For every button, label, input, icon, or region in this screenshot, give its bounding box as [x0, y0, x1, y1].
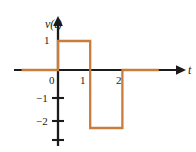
x-tick-label-0: 0: [49, 75, 55, 86]
x-axis-label: t: [188, 64, 191, 76]
y-tick-label-minus1: −1: [36, 93, 48, 104]
waveform-figure: [0, 0, 196, 152]
x-tick-label-2: 2: [116, 75, 122, 86]
y-axis-label: v(t): [45, 18, 62, 30]
y-tick-label-1: 1: [44, 35, 50, 46]
x-axis-arrowhead: [176, 65, 186, 75]
y-tick-label-minus2: −2: [36, 116, 48, 127]
x-tick-label-1: 1: [80, 75, 86, 86]
